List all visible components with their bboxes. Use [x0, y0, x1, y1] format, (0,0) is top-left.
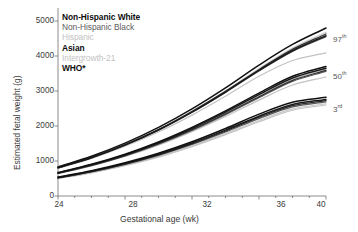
y-tick-label: 0 [26, 191, 54, 200]
percentile-suffix: th [342, 70, 347, 76]
y-axis-title: Estimated fetal weight (g) [12, 76, 22, 171]
legend-item-non-hispanic-white: Non-Hispanic White [62, 12, 140, 22]
y-tick-label: 2000 [26, 121, 54, 130]
legend-item-who: WHO* [62, 63, 140, 73]
y-tick-label: 1000 [26, 156, 54, 165]
chart-legend: Non-Hispanic White Non-Hispanic Black Hi… [62, 12, 140, 73]
legend-item-asian: Asian [62, 43, 140, 53]
y-tick-label: 4000 [26, 51, 54, 60]
percentile-value: 97 [333, 35, 342, 44]
percentile-label-50th: 50th [333, 70, 346, 81]
percentile-value: 50 [333, 72, 342, 81]
x-tick-label: 28 [122, 200, 144, 209]
x-tick-label: 24 [48, 200, 70, 209]
x-tick-label: 40 [310, 200, 332, 209]
percentile-label-3rd: 3rd [333, 103, 342, 114]
x-tick-label: 32 [196, 200, 218, 209]
percentile-label-97th: 97th [333, 33, 346, 44]
percentile-suffix: th [342, 33, 347, 39]
legend-item-non-hispanic-black: Non-Hispanic Black [62, 22, 140, 32]
legend-item-hispanic: Hispanic [62, 32, 140, 42]
y-tick-label: 5000 [26, 16, 54, 25]
x-tick-label: 36 [270, 200, 292, 209]
fetal-growth-chart-figure: Estimated fetal weight (g) 5000 4000 300… [0, 0, 358, 232]
percentile-suffix: rd [337, 103, 342, 109]
x-axis-title: Gestational age (wk) [120, 214, 199, 224]
y-tick-label: 3000 [26, 86, 54, 95]
legend-item-intergrowth-21: Intergrowth-21 [62, 53, 140, 63]
